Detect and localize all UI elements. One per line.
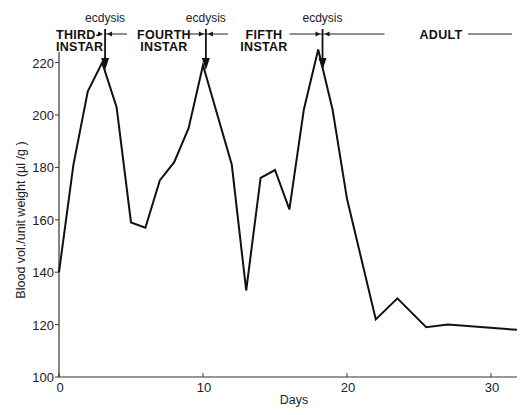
x-tick-label: 0	[56, 380, 63, 395]
axes	[59, 52, 517, 377]
ecdysis-label: ecdysis	[303, 11, 343, 25]
ticks: 1001201401601802002200102030	[32, 56, 499, 395]
x-tick-label: 10	[197, 380, 211, 395]
stage-annotations: ecdysisecdysisecdysisTHIRD-INSTARFOURTHI…	[56, 11, 512, 70]
y-tick-label: 100	[32, 370, 54, 385]
stage-label: ADULT	[420, 28, 463, 42]
ecdysis-arrow-icon	[319, 58, 327, 70]
stage-label: INSTAR	[140, 40, 187, 54]
y-tick-label: 160	[32, 213, 54, 228]
y-tick-label: 180	[32, 160, 54, 175]
x-axis-title: Days	[280, 393, 308, 407]
x-tick-label: 20	[341, 380, 355, 395]
ecdysis-label: ecdysis	[186, 11, 226, 25]
y-tick-label: 220	[32, 56, 54, 71]
ecdysis-label: ecdysis	[85, 11, 125, 25]
y-axis-title: Blood vol./unit weight (µl /g )	[14, 141, 28, 298]
blood-volume-chart: 1001201401601802002200102030 ecdysisecdy…	[0, 0, 529, 415]
y-tick-label: 120	[32, 318, 54, 333]
stage-label: INSTAR	[240, 40, 287, 54]
blood-volume-line	[59, 50, 517, 330]
x-tick-label: 30	[485, 380, 499, 395]
y-tick-label: 200	[32, 108, 54, 123]
stage-label: INSTAR	[56, 40, 103, 54]
y-tick-label: 140	[32, 265, 54, 280]
